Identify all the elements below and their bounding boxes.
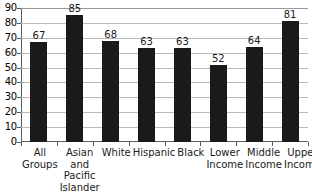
- bar-value-label: 64: [248, 36, 261, 46]
- x-axis-tick-mark: [21, 142, 22, 146]
- bar: 85: [66, 15, 83, 142]
- bar-series: 6785686363526481: [21, 8, 308, 142]
- x-axis-category-label: AsianandPacificIslander: [59, 147, 101, 193]
- y-axis-tick-label: 30: [0, 92, 17, 102]
- bar-slot: 52: [200, 8, 236, 142]
- y-axis: 9080706050403020100: [0, 0, 21, 193]
- y-axis-tick-label: 0: [0, 137, 17, 147]
- x-axis-category-label: AllGroups: [21, 147, 59, 193]
- bar-slot: 68: [93, 8, 129, 142]
- bar: 63: [138, 48, 155, 142]
- y-axis-tick-label: 50: [0, 63, 17, 73]
- x-axis-category-label-line: Pacific: [60, 170, 100, 182]
- bar-chart: 9080706050403020100 6785686363526481 All…: [0, 0, 312, 193]
- x-axis-category-label: White: [101, 147, 132, 193]
- x-axis-category-label-line: Black: [177, 147, 204, 159]
- x-axis-category-label-line: Hispanic: [133, 147, 176, 159]
- bar-slot: 63: [165, 8, 201, 142]
- x-axis-tick-mark: [272, 142, 273, 146]
- bar: 68: [102, 41, 119, 142]
- x-axis-tick-mark: [236, 142, 237, 146]
- x-axis-ticks: [21, 142, 308, 146]
- x-axis-category-label-line: Upper: [284, 147, 312, 159]
- x-axis-category-label: UpperIncome: [283, 147, 312, 193]
- x-axis-category-label-line: All: [22, 147, 58, 159]
- x-axis-category-label-line: White: [102, 147, 131, 159]
- bar-value-label: 63: [140, 37, 153, 47]
- bar-slot: 67: [21, 8, 57, 142]
- bar-slot: 64: [236, 8, 272, 142]
- bar: 81: [282, 21, 299, 142]
- x-axis-category-label-line: Middle: [245, 147, 282, 159]
- bar-slot: 81: [272, 8, 308, 142]
- y-axis-tick-label: 10: [0, 122, 17, 132]
- bar: 63: [174, 48, 191, 142]
- bar-slot: 85: [57, 8, 93, 142]
- x-axis-category-label-line: Groups: [22, 159, 58, 171]
- y-axis-tick-label: 90: [0, 3, 17, 13]
- x-axis-category-label-line: Asian: [60, 147, 100, 159]
- y-axis-tick-label: 40: [0, 77, 17, 87]
- bar-value-label: 85: [68, 4, 81, 14]
- bar-value-label: 67: [33, 31, 46, 41]
- x-axis-category-label-line: Lower: [206, 147, 243, 159]
- bar: 52: [210, 65, 227, 142]
- x-axis-category-label: LowerIncome: [205, 147, 244, 193]
- x-axis-category-label-line: Income: [245, 159, 282, 171]
- x-axis-category-label-line: and: [60, 159, 100, 171]
- x-axis-labels: AllGroupsAsianandPacificIslanderWhiteHis…: [21, 147, 308, 193]
- bar-slot: 63: [129, 8, 165, 142]
- y-axis-tick-label: 20: [0, 107, 17, 117]
- bar-value-label: 81: [284, 10, 297, 20]
- bar: 64: [246, 47, 263, 142]
- x-axis-category-label: Hispanic: [132, 147, 177, 193]
- x-axis-tick-mark: [57, 142, 58, 146]
- bar-value-label: 52: [212, 54, 225, 64]
- x-axis-tick-mark: [165, 142, 166, 146]
- x-axis-category-label: MiddleIncome: [244, 147, 283, 193]
- plot-area: 6785686363526481: [21, 8, 308, 142]
- x-axis-tick-mark: [308, 142, 309, 146]
- x-axis-category-label-line: Income: [206, 159, 243, 171]
- x-axis-category-label-line: Income: [284, 159, 312, 171]
- x-axis-category-label-line: Islander: [60, 182, 100, 194]
- y-axis-tick-label: 70: [0, 33, 17, 43]
- bar-value-label: 68: [104, 30, 117, 40]
- x-axis-tick-mark: [129, 142, 130, 146]
- x-axis-tick-mark: [93, 142, 94, 146]
- y-axis-tick-label: 60: [0, 48, 17, 58]
- x-axis-category-label: Black: [176, 147, 205, 193]
- bar-value-label: 63: [176, 37, 189, 47]
- y-axis-tick-label: 80: [0, 18, 17, 28]
- x-axis-tick-mark: [200, 142, 201, 146]
- bar: 67: [30, 42, 47, 142]
